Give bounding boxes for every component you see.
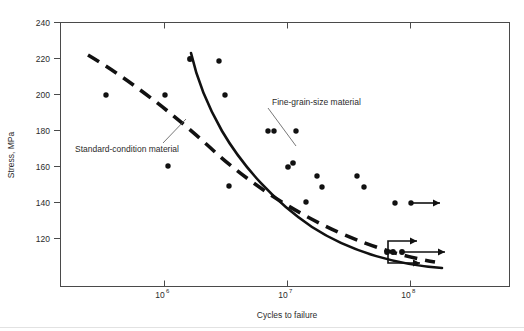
y-axis-title: Stress, MPa (6, 132, 16, 179)
data-point (293, 128, 298, 133)
data-point (392, 200, 397, 205)
data-point (216, 58, 221, 63)
curve-standard-condition-material (88, 55, 435, 262)
data-point (271, 128, 276, 133)
data-points (103, 56, 397, 206)
data-point (265, 128, 270, 133)
y-tick-label-180: 180 (36, 126, 50, 136)
data-point (314, 173, 319, 178)
y-tick-label-160: 160 (36, 162, 50, 172)
x-tick-label-1e6: 10 6 (155, 288, 170, 300)
annotation-standard-condition-material: Standard-condition material (75, 144, 179, 154)
data-point (285, 164, 291, 170)
x-tick-base-1: 10 (155, 290, 165, 300)
y-tick-label-220: 220 (36, 54, 50, 64)
y-tick-label-120: 120 (36, 234, 50, 244)
data-point (103, 92, 108, 97)
annotation-leaders (163, 108, 296, 146)
x-axis-title: Cycles to failure (257, 310, 318, 320)
x-tick-label-1e8: 10 8 (401, 288, 416, 300)
data-point (319, 184, 324, 189)
x-tick-base-3: 10 (401, 290, 411, 300)
fatigue-sn-chart: 240 220 200 180 160 140 120 Stress, MPa … (0, 0, 524, 331)
data-point (354, 173, 359, 178)
x-tick-exponent-3: 8 (412, 288, 416, 294)
x-tick-base-2: 10 (278, 290, 288, 300)
data-point (162, 92, 167, 97)
runout-marker-cluster (384, 238, 445, 267)
curve-fine-grain-size-material (191, 53, 442, 268)
y-tick-label-140: 140 (36, 198, 50, 208)
x-axis-tick-labels: 10 6 10 7 10 8 (155, 288, 416, 300)
y-tick-label-240: 240 (36, 18, 50, 28)
data-point (303, 199, 308, 204)
data-point (165, 163, 170, 168)
y-axis-tick-labels: 240 220 200 180 160 140 120 (36, 18, 50, 244)
data-point (226, 183, 231, 188)
data-point (187, 56, 193, 62)
annotation-fine-grain-size-material: Fine-grain-size material (272, 97, 361, 107)
y-tick-label-200: 200 (36, 90, 50, 100)
x-tick-label-1e7: 10 7 (278, 288, 293, 300)
x-tick-exponent-2: 7 (289, 288, 293, 294)
data-point (290, 160, 296, 166)
runout-marker (408, 200, 440, 207)
figure-container: 240 220 200 180 160 140 120 Stress, MPa … (0, 0, 524, 331)
data-point (361, 184, 366, 189)
data-point (222, 92, 227, 97)
plot-frame (60, 23, 510, 287)
y-axis-ticks (54, 23, 60, 239)
x-tick-exponent-1: 6 (166, 288, 170, 294)
